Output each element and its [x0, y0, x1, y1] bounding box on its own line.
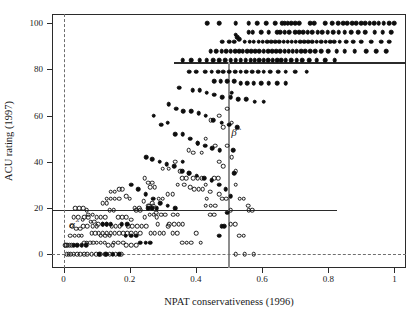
data-point-open-circle	[104, 201, 109, 206]
data-point-filled-circle	[308, 49, 313, 54]
data-point-filled-circle	[228, 194, 233, 199]
data-point-filled-circle	[300, 58, 305, 63]
data-point-filled-circle	[209, 49, 214, 54]
data-point-filled-circle	[129, 183, 134, 188]
y-tick-label: 80	[34, 65, 43, 74]
data-point-filled-circle	[276, 69, 281, 74]
data-point-filled-circle	[330, 21, 335, 26]
x-axis-title: NPAT conservativeness (1996)	[52, 296, 406, 308]
data-point-open-circle	[144, 224, 149, 229]
x-tick-mark	[328, 268, 329, 273]
data-point-filled-circle	[232, 79, 237, 84]
data-point-open-circle	[229, 155, 234, 160]
data-point-filled-circle	[238, 69, 243, 74]
data-point-open-circle	[166, 224, 171, 229]
data-point-filled-circle	[217, 183, 222, 188]
data-point-filled-circle	[108, 222, 113, 227]
data-point-open-circle	[217, 113, 222, 118]
data-point-open-circle	[200, 150, 205, 155]
data-point-filled-circle	[189, 58, 194, 63]
data-point-filled-circle	[323, 21, 328, 26]
data-point-open-circle	[156, 222, 161, 227]
data-point-open-circle	[69, 252, 74, 257]
data-point-open-circle	[204, 136, 209, 141]
data-point-filled-circle	[314, 58, 319, 63]
data-point-filled-circle	[369, 39, 374, 44]
data-point-open-circle	[225, 143, 230, 148]
data-point-filled-circle	[259, 30, 264, 35]
data-point-filled-circle	[237, 37, 242, 42]
y-tick-mark	[47, 208, 52, 209]
data-point-filled-circle	[151, 196, 156, 201]
data-point-filled-circle	[307, 58, 312, 63]
data-point-open-circle	[217, 159, 222, 164]
data-point-open-circle	[129, 217, 134, 222]
data-point-open-circle	[165, 192, 170, 197]
data-point-filled-circle	[304, 69, 309, 74]
data-point-filled-circle	[220, 39, 225, 44]
data-point-filled-circle	[325, 30, 330, 35]
data-point-filled-circle	[187, 69, 192, 74]
data-point-open-circle	[86, 215, 91, 220]
data-point-open-circle	[152, 185, 157, 190]
data-point-filled-circle	[333, 58, 338, 63]
data-point-filled-circle	[266, 30, 271, 35]
data-point-filled-circle	[225, 79, 230, 84]
data-point-open-circle	[162, 231, 167, 236]
data-point-filled-circle	[351, 39, 356, 44]
data-point-filled-circle	[323, 58, 328, 63]
data-point-open-circle	[142, 215, 147, 220]
data-point-filled-circle	[334, 49, 339, 54]
zero-x-dashed-line	[64, 14, 65, 268]
data-point-filled-circle	[312, 21, 317, 26]
data-point-filled-circle	[220, 95, 225, 100]
data-point-filled-circle	[387, 21, 392, 26]
data-point-filled-circle	[344, 39, 349, 44]
data-point-open-circle	[151, 213, 156, 218]
data-point-open-circle	[191, 150, 196, 155]
data-point-filled-circle	[148, 240, 153, 245]
y-tick-mark	[47, 69, 52, 70]
data-point-open-circle	[79, 233, 84, 238]
x-tick-label: 0.8	[323, 275, 334, 284]
data-point-filled-circle	[181, 109, 186, 114]
data-point-open-circle	[170, 192, 175, 197]
data-point-open-circle	[150, 180, 155, 185]
data-point-filled-circle	[97, 252, 102, 257]
data-point-filled-circle	[284, 81, 289, 86]
data-point-filled-circle	[297, 21, 302, 26]
data-point-filled-circle	[180, 58, 185, 63]
data-point-filled-circle	[379, 39, 384, 44]
x-tick-mark	[64, 268, 65, 273]
data-point-filled-circle	[212, 93, 217, 98]
data-point-filled-circle	[273, 21, 278, 26]
data-point-filled-circle	[198, 58, 203, 63]
data-point-filled-circle	[204, 113, 209, 118]
data-point-filled-circle	[159, 123, 164, 128]
data-point-filled-circle	[227, 69, 232, 74]
data-point-filled-circle	[228, 95, 233, 100]
data-point-filled-circle	[223, 58, 228, 63]
y-tick-label: 40	[34, 157, 43, 166]
data-point-filled-circle	[158, 201, 163, 206]
data-point-open-circle	[200, 187, 205, 192]
data-point-filled-circle	[253, 99, 258, 104]
data-point-open-circle	[204, 196, 209, 201]
data-point-filled-circle	[221, 69, 226, 74]
data-point-filled-circle	[227, 39, 232, 44]
data-point-open-circle	[127, 196, 132, 201]
x-tick-label: 1	[392, 275, 397, 284]
data-point-open-circle	[213, 203, 218, 208]
data-point-filled-circle	[381, 30, 386, 35]
x-tick-label: 0.6	[256, 275, 267, 284]
data-point-filled-circle	[232, 171, 237, 176]
data-point-open-circle	[117, 196, 122, 201]
y-tick-label: 20	[34, 203, 43, 212]
data-point-open-circle	[242, 196, 247, 201]
data-point-open-circle	[189, 240, 194, 245]
data-point-filled-circle	[209, 178, 214, 183]
x-tick-mark	[130, 268, 131, 273]
data-point-filled-circle	[136, 187, 141, 192]
data-point-filled-circle	[384, 49, 389, 54]
data-point-filled-circle	[331, 30, 336, 35]
